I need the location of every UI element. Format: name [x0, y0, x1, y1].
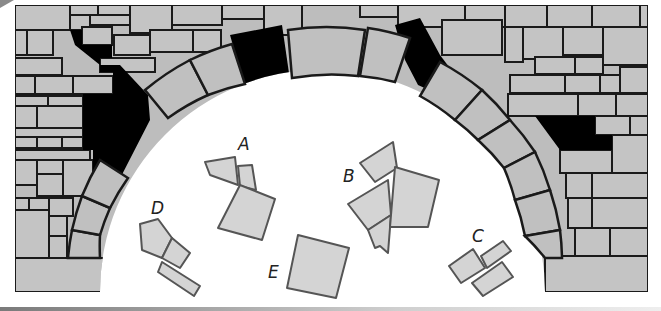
option-d-piece[interactable] [140, 219, 200, 296]
option-label-a: A [237, 134, 250, 154]
option-a-piece[interactable] [205, 157, 275, 240]
option-label-b: B [343, 166, 355, 186]
option-b-piece[interactable] [348, 142, 439, 253]
arch-puzzle-illustration: A B C D E [0, 0, 661, 311]
option-label-d: D [151, 198, 164, 218]
option-label-c: C [472, 226, 484, 246]
option-label-e: E [268, 262, 279, 282]
bottom-rule [0, 307, 661, 311]
option-pieces [140, 142, 513, 298]
option-e-piece[interactable] [287, 235, 349, 298]
option-c-piece[interactable] [449, 241, 513, 296]
